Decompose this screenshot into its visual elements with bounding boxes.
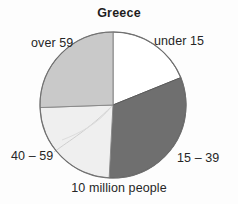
chart-caption: 10 million people — [0, 181, 238, 195]
slice-label-under-15: under 15 — [154, 34, 204, 48]
pie-chart-graphic — [0, 0, 238, 204]
slice-label-15-39: 15 – 39 — [177, 151, 219, 165]
pie-chart-figure: Greece over 59 under 15 40 – 59 15 – 39 … — [0, 0, 238, 204]
slice-label-over-59: over 59 — [31, 36, 73, 50]
slice-label-40-59: 40 – 59 — [11, 149, 53, 163]
pie-svg — [0, 0, 238, 204]
